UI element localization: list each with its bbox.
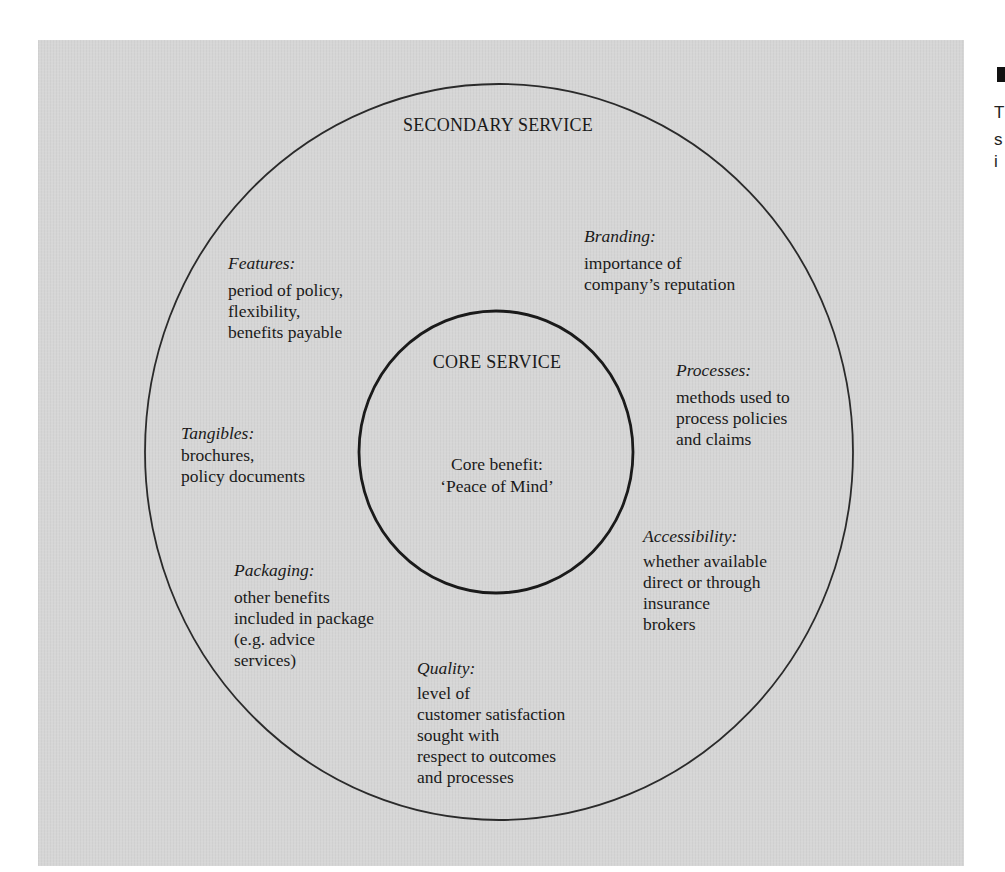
element-line: services) <box>234 650 374 671</box>
element-branding: Branding: importance of company’s reputa… <box>584 226 735 295</box>
element-line: respect to outcomes <box>417 746 565 767</box>
element-line: flexibility, <box>228 301 343 322</box>
element-line: insurance <box>643 593 767 614</box>
element-line: brochures, <box>181 445 305 466</box>
element-line: (e.g. advice <box>234 629 374 650</box>
element-heading: Processes: <box>676 360 790 381</box>
element-processes: Processes: methods used to process polic… <box>676 360 790 450</box>
element-line: level of <box>417 683 565 704</box>
core-benefit: Core benefit: ‘Peace of Mind’ <box>440 453 554 497</box>
element-line: customer satisfaction <box>417 704 565 725</box>
element-line: direct or through <box>643 572 767 593</box>
caption-fragment: i <box>994 153 998 170</box>
element-accessibility: Accessibility: whether available direct … <box>643 526 767 635</box>
element-line: whether available <box>643 551 767 572</box>
element-line: included in package <box>234 608 374 629</box>
element-line: and processes <box>417 767 565 788</box>
element-line: process policies <box>676 408 790 429</box>
element-line: benefits payable <box>228 322 343 343</box>
caption-marker <box>997 67 1005 82</box>
element-quality: Quality: level of customer satisfaction … <box>417 658 565 788</box>
element-heading: Accessibility: <box>643 526 767 547</box>
element-heading: Features: <box>228 253 343 274</box>
core-benefit-label: Core benefit: <box>440 453 554 475</box>
caption-fragment: T <box>994 104 1004 121</box>
element-line: other benefits <box>234 587 374 608</box>
element-heading: Tangibles: <box>181 423 305 444</box>
element-heading: Packaging: <box>234 560 374 581</box>
core-service-title: CORE SERVICE <box>433 352 561 373</box>
element-line: policy documents <box>181 466 305 487</box>
element-heading: Quality: <box>417 658 565 679</box>
element-line: company’s reputation <box>584 274 735 295</box>
element-heading: Branding: <box>584 226 735 247</box>
element-tangibles: Tangibles: brochures, policy documents <box>181 423 305 487</box>
element-packaging: Packaging: other benefits included in pa… <box>234 560 374 671</box>
core-benefit-value: ‘Peace of Mind’ <box>440 475 554 497</box>
element-features: Features: period of policy, flexibility,… <box>228 253 343 343</box>
element-line: sought with <box>417 725 565 746</box>
element-line: methods used to <box>676 387 790 408</box>
secondary-service-title: SECONDARY SERVICE <box>403 115 593 136</box>
caption-fragment: s <box>994 131 1003 148</box>
element-line: period of policy, <box>228 280 343 301</box>
element-line: and claims <box>676 429 790 450</box>
element-line: brokers <box>643 614 767 635</box>
element-line: importance of <box>584 253 735 274</box>
